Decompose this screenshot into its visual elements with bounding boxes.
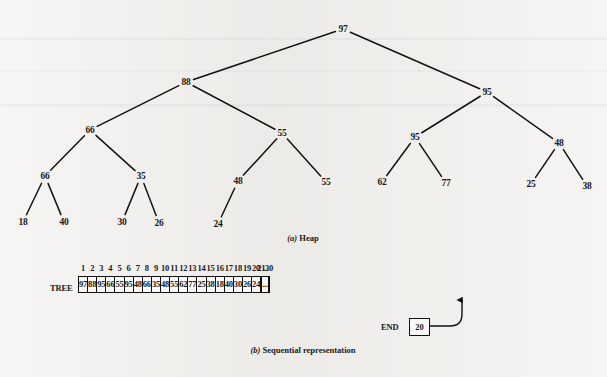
- heap-edge: [494, 97, 553, 139]
- heap-edge: [193, 86, 275, 129]
- array-cell: 25: [197, 277, 206, 293]
- heap-node: 55: [276, 128, 287, 138]
- array-column-header: 10: [161, 263, 169, 273]
- heap-node: 66: [39, 171, 50, 181]
- array-cell: 77: [188, 277, 197, 293]
- heap-node: 95: [481, 87, 492, 97]
- array-column-header: 17: [225, 263, 233, 273]
- array-cell: 66: [142, 277, 151, 293]
- heap-edge: [536, 150, 555, 178]
- heap-node: 30: [116, 217, 127, 227]
- array-cell: 97: [79, 277, 88, 293]
- array-caption-marker: (b): [251, 345, 261, 355]
- array-cell: 88: [88, 277, 97, 293]
- array-cell: 55: [170, 277, 179, 293]
- heap-node: 95: [409, 132, 420, 142]
- heap-node: 35: [135, 171, 146, 181]
- heap-edge: [221, 188, 234, 216]
- heap-edge: [243, 139, 276, 175]
- heap-node: 26: [153, 218, 164, 228]
- heap-edge: [125, 183, 138, 214]
- array-column-header: 4: [108, 263, 112, 273]
- heap-edge: [26, 183, 41, 215]
- heap-edge: [97, 86, 179, 127]
- array-cell: 66: [106, 277, 115, 293]
- heap-node: 18: [17, 217, 28, 227]
- heap-edge: [51, 136, 85, 171]
- end-arrow-icon: [429, 300, 462, 326]
- heap-edge: [48, 183, 61, 214]
- heap-node: 88: [180, 77, 191, 87]
- array-column-header: 5: [117, 263, 121, 273]
- end-pointer-label: END: [381, 322, 398, 332]
- array-cell: 38: [206, 277, 215, 293]
- array-table-wrap: 9788956655954866354855627725381840302624…: [78, 276, 270, 293]
- heap-caption-marker: (a): [287, 233, 297, 243]
- array-cell: 24: [252, 277, 261, 293]
- end-pointer-value-box: 20: [409, 318, 430, 336]
- array-column-header: 8: [145, 263, 149, 273]
- array-column-header: 9: [154, 263, 158, 273]
- heap-edge: [96, 135, 135, 170]
- end-pointer-layer: [0, 0, 607, 377]
- array-cell: 35: [151, 277, 160, 293]
- heap-edge-layer: [0, 0, 607, 377]
- heap-node: 38: [581, 181, 592, 191]
- array-column-header: 2: [90, 263, 94, 273]
- array-column-header: 7: [136, 263, 140, 273]
- array-cell: 55: [115, 277, 124, 293]
- array-column-header: 12: [179, 263, 187, 273]
- heap-edge: [422, 96, 480, 133]
- array-column-header: 18: [234, 263, 242, 273]
- array-cell: 48: [160, 277, 169, 293]
- heap-caption-text: Heap: [297, 233, 319, 243]
- paper-texture: [0, 0, 607, 377]
- array-column-header: 3: [99, 263, 103, 273]
- heap-node: 77: [440, 178, 451, 188]
- heap-edge: [563, 150, 582, 180]
- heap-edge: [194, 32, 336, 80]
- heap-edge: [419, 144, 441, 177]
- heap-node: 48: [553, 138, 564, 148]
- array-row: 9788956655954866354855627725381840302624…: [79, 277, 270, 293]
- array-ellipsis-cell: ...: [262, 277, 269, 293]
- heap-caption: (a) Heap: [287, 233, 318, 243]
- array-cell: 30: [233, 277, 242, 293]
- array-column-header: 6: [127, 263, 131, 273]
- heap-edge: [350, 32, 479, 89]
- heap-node: 62: [376, 177, 387, 187]
- array-cell: 95: [124, 277, 133, 293]
- heap-node: 25: [525, 179, 536, 189]
- array-cell: [268, 277, 269, 293]
- array-cell: 40: [224, 277, 233, 293]
- array-column-header: 11: [170, 263, 178, 273]
- array-cell: 48: [133, 277, 142, 293]
- heap-edge: [144, 183, 156, 215]
- array-column-header: 16: [216, 263, 224, 273]
- array-cell: 62: [179, 277, 188, 293]
- array-column-header: 1: [81, 263, 85, 273]
- tree-array-table: 9788956655954866354855627725381840302624…: [78, 276, 270, 293]
- heap-node: 55: [320, 177, 331, 187]
- heap-node: 66: [84, 125, 95, 135]
- array-caption-text: Sequential representation: [260, 345, 355, 355]
- array-cell: 18: [215, 277, 224, 293]
- array-caption: (b) Sequential representation: [251, 345, 356, 355]
- array-cell: 95: [97, 277, 106, 293]
- heap-edge: [287, 139, 320, 176]
- array-column-header: 13: [188, 263, 196, 273]
- heap-node: 48: [232, 176, 243, 186]
- array-cell: 26: [242, 277, 251, 293]
- heap-node: 97: [337, 24, 348, 34]
- array-column-header: 14: [197, 263, 205, 273]
- heap-edge: [387, 143, 411, 175]
- heap-node: 24: [212, 219, 223, 229]
- array-column-header: 19: [243, 263, 251, 273]
- heap-node: 40: [58, 217, 69, 227]
- array-column-header: 15: [207, 263, 215, 273]
- array-column-header: 30: [265, 263, 273, 273]
- array-name-label: TREE: [50, 283, 72, 293]
